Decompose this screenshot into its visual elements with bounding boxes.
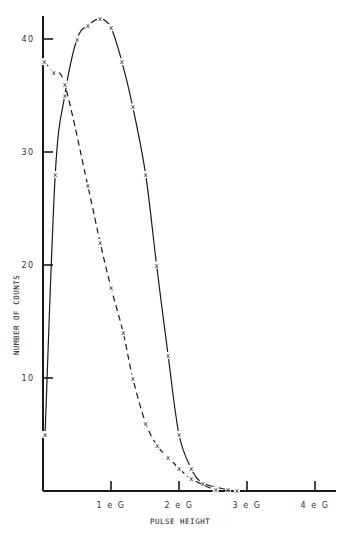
x-marker-icon: x	[109, 24, 113, 32]
x-marker-icon: x	[166, 454, 170, 462]
y-axis-title: NUMBER OF COUNTS	[12, 275, 21, 355]
series-dashed: xxxxxxxxxxxxxxx	[41, 58, 239, 494]
x-marker-icon: x	[144, 171, 148, 179]
pulse-height-chart: 10203040 1 e G2 e G3 e G4 e G NUMBER OF …	[0, 0, 348, 536]
x-marker-icon: x	[75, 36, 79, 44]
x-marker-icon: x	[43, 431, 47, 439]
x-ticks: 1 e G2 e G3 e G4 e G	[97, 481, 330, 510]
x-marker-icon: x	[109, 284, 113, 292]
x-marker-icon: x	[177, 465, 181, 473]
x-tick-label: 1 e G	[97, 501, 126, 510]
y-tick-label: 20	[21, 261, 34, 270]
x-marker-icon: x	[131, 375, 135, 383]
x-marker-icon: x	[63, 81, 67, 89]
y-tick-label: 40	[21, 35, 34, 44]
x-marker-icon: x	[214, 486, 218, 494]
x-marker-icon: x	[131, 103, 135, 111]
x-marker-icon: x	[189, 475, 193, 483]
y-tick-label: 10	[21, 374, 34, 383]
x-marker-icon: x	[177, 431, 181, 439]
x-marker-icon: x	[86, 182, 90, 190]
x-marker-icon: x	[86, 22, 90, 30]
x-tick-label: 4 e G	[301, 501, 330, 510]
dashed-curve	[44, 62, 236, 491]
y-tick-label: 30	[21, 148, 34, 157]
x-marker-icon: x	[120, 58, 124, 66]
series-solid: xxxxxxxxxxxxxxxx	[42, 15, 231, 494]
x-marker-icon: x	[144, 420, 148, 428]
x-marker-icon: x	[63, 92, 67, 100]
x-marker-icon: x	[52, 69, 56, 77]
x-marker-icon: x	[98, 15, 102, 23]
x-axis-title: PULSE HEIGHT	[150, 517, 210, 526]
x-marker-icon: x	[121, 329, 125, 337]
x-marker-icon: x	[189, 465, 193, 473]
data-series: xxxxxxxxxxxxxxxxxxxxxxxxxxxxxxx	[41, 15, 239, 494]
x-marker-icon: x	[42, 58, 46, 66]
x-marker-icon: x	[235, 487, 239, 495]
solid-curve	[45, 19, 228, 490]
x-marker-icon: x	[53, 171, 57, 179]
x-marker-icon: x	[154, 262, 158, 270]
x-marker-icon: x	[166, 352, 170, 360]
x-tick-label: 3 e G	[233, 501, 262, 510]
x-tick-label: 2 e G	[165, 501, 194, 510]
axes: 10203040 1 e G2 e G3 e G4 e G NUMBER OF …	[12, 16, 336, 526]
x-marker-icon: x	[98, 239, 102, 247]
x-marker-icon: x	[155, 442, 159, 450]
